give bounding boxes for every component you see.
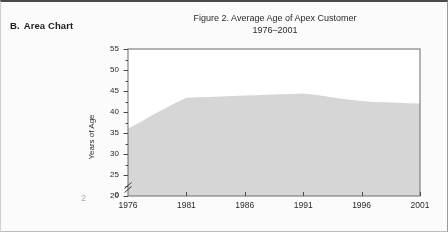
area-series-path xyxy=(128,94,420,196)
x-tick-label: 1991 xyxy=(283,201,323,210)
y-tick-label: 55 xyxy=(97,45,119,53)
x-tick-label: 1986 xyxy=(225,201,265,210)
x-tick-label: 1981 xyxy=(166,201,206,210)
x-tick-label: 2001 xyxy=(400,201,440,210)
chart-canvas xyxy=(1,2,448,232)
y-tick-label: 30 xyxy=(97,150,119,158)
document-page: B.Area Chart Figure 2. Average Age of Ap… xyxy=(0,0,448,232)
y-tick-label: 40 xyxy=(97,108,119,116)
y-tick-label: 45 xyxy=(97,87,119,95)
y-baseline-zero-label: 0 xyxy=(97,191,119,199)
x-tick-label: 1996 xyxy=(342,201,382,210)
area-chart: Years of Age xyxy=(1,2,448,232)
y-tick-label: 50 xyxy=(97,66,119,74)
y-tick-label: 35 xyxy=(97,129,119,137)
y-tick-label: 25 xyxy=(97,171,119,179)
x-tick-label: 1976 xyxy=(108,201,148,210)
